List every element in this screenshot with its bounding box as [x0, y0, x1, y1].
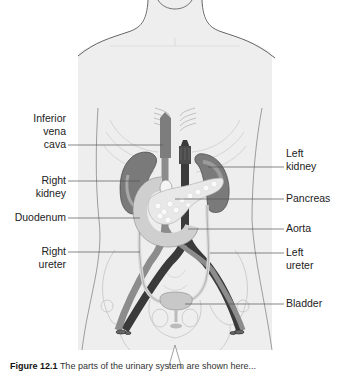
label-line: ureter	[286, 259, 313, 272]
label-line: Left	[286, 147, 316, 160]
label-line: kidney	[36, 187, 66, 200]
figure-caption: Figure 12.1 The parts of the urinary sys…	[10, 361, 256, 371]
label-line: Right	[39, 245, 66, 258]
label-line: Right	[36, 174, 66, 187]
label-line: Bladder	[286, 297, 322, 310]
label-left-ureter: Left ureter	[286, 246, 313, 272]
label-inferior-vena-cava: Inferior vena cava	[33, 112, 66, 151]
label-line: cava	[33, 138, 66, 151]
label-line: Inferior	[33, 112, 66, 125]
label-line: Aorta	[286, 222, 311, 235]
label-duodenum: Duodenum	[15, 211, 66, 224]
label-line: ureter	[39, 258, 66, 271]
label-right-ureter: Right ureter	[39, 245, 66, 271]
label-aorta: Aorta	[286, 222, 311, 235]
figure-caption-text: The parts of the urinary system are show…	[60, 361, 256, 371]
urethra-base	[170, 324, 182, 329]
label-pancreas: Pancreas	[286, 192, 330, 205]
label-right-kidney: Right kidney	[36, 174, 66, 200]
label-line: Pancreas	[286, 192, 330, 205]
label-line: Left	[286, 246, 313, 259]
label-bladder: Bladder	[286, 297, 322, 310]
label-left-kidney: Left kidney	[286, 147, 316, 173]
figure-number: Figure 12.1	[10, 361, 58, 371]
label-line: kidney	[286, 160, 316, 173]
bladder-shape	[160, 292, 192, 310]
label-line: Duodenum	[15, 211, 66, 224]
label-line: vena	[33, 125, 66, 138]
